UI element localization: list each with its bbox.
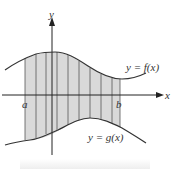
curve-f-label: y = f(x) xyxy=(126,62,159,73)
caption-strip xyxy=(20,159,150,169)
x-axis-label: x xyxy=(165,90,170,101)
y-axis-label: y xyxy=(49,9,54,20)
area-between-curves-diagram xyxy=(0,0,173,169)
x-axis-arrow-icon xyxy=(156,92,164,98)
label-a: a xyxy=(22,99,28,110)
shaded-region xyxy=(25,52,120,140)
label-b: b xyxy=(116,99,122,110)
curve-g-label: y = g(x) xyxy=(88,132,124,143)
